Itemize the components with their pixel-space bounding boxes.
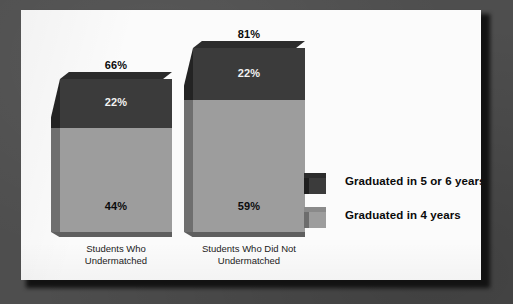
bar-segment-light-side — [184, 100, 193, 232]
legend-swatch-front-face — [309, 212, 326, 228]
bar-segment-dark[interactable]: 22% — [193, 48, 305, 100]
legend-swatch-front-face — [309, 178, 326, 194]
bar-segment-dark-label: 22% — [193, 67, 305, 79]
bar-category-label: Students Who Undermatched — [51, 243, 181, 267]
figure-root: 66% 22% 44% Students Who — [0, 0, 513, 304]
bar-segment-light-side — [51, 128, 60, 232]
bar-top-face — [60, 72, 172, 79]
bar-category-label: Students Who Did Not Undermatched — [179, 243, 319, 267]
legend-swatch-dark-icon — [309, 173, 326, 190]
bar-segment-dark-side — [184, 48, 193, 100]
bar-segment-dark-label: 22% — [60, 96, 172, 108]
bar-segment-light[interactable]: 44% — [60, 128, 172, 232]
bar-segment-light-label: 59% — [193, 200, 305, 212]
bar-total-label: 66% — [60, 59, 172, 71]
bar-group-not-undermatched[interactable]: 81% 22% 59% Students Who Did Not Underma… — [179, 10, 319, 280]
bar-total-label: 81% — [193, 28, 305, 40]
bar-segment-dark[interactable]: 22% — [60, 79, 172, 128]
bar-top-face — [193, 41, 305, 48]
bar-segment-light[interactable]: 59% — [193, 100, 305, 232]
legend-swatch-light-icon — [309, 207, 326, 224]
bar-base-shadow — [51, 232, 172, 237]
legend-label: Graduated in 5 or 6 years — [345, 175, 481, 187]
plot-area: 66% 22% 44% Students Who — [21, 10, 481, 280]
legend-item-4-years[interactable]: Graduated in 4 years — [305, 204, 481, 231]
bar-segment-light-front — [193, 100, 305, 232]
bar-group-undermatched[interactable]: 66% 22% 44% Students Who — [51, 10, 181, 280]
chart-card: 66% 22% 44% Students Who — [21, 10, 481, 280]
bar-segment-light-label: 44% — [60, 200, 172, 212]
legend-label: Graduated in 4 years — [345, 209, 461, 221]
bar-base-shadow — [184, 232, 305, 237]
chart-legend: Graduated in 5 or 6 years Graduated in 4… — [305, 170, 481, 238]
bar-segment-dark-side — [51, 79, 60, 128]
legend-item-5-or-6-years[interactable]: Graduated in 5 or 6 years — [305, 170, 481, 197]
bar-segment-light-front — [60, 128, 172, 232]
